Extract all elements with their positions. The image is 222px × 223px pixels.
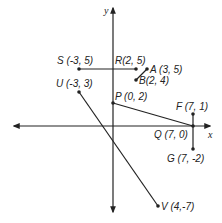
x-axis-label: x xyxy=(207,129,213,140)
point-B xyxy=(134,78,138,82)
label-F: F (7, 1) xyxy=(176,101,208,112)
label-Q: Q (7, 0) xyxy=(154,129,188,140)
point-F xyxy=(191,112,195,116)
y-axis-label: y xyxy=(103,5,109,16)
label-U: U (-3, 3) xyxy=(56,78,93,89)
label-G: G (7, -2) xyxy=(167,153,204,164)
point-U xyxy=(77,90,81,94)
point-Q xyxy=(191,124,195,128)
point-V xyxy=(156,204,160,208)
label-B: B(2, 4) xyxy=(139,75,169,86)
label-V: V (4,-7) xyxy=(161,201,194,212)
label-R: R(2, 5) xyxy=(115,55,146,66)
point-R xyxy=(134,67,138,71)
point-A xyxy=(145,67,149,71)
label-S: S (-3, 5) xyxy=(57,55,93,66)
segment-UV xyxy=(79,92,158,206)
point-S xyxy=(77,67,81,71)
point-G xyxy=(191,147,195,151)
coordinate-plane: x y S (-3, 5) R(2, 5) A (3, 5) B(2, 4) U… xyxy=(0,0,222,223)
label-P: P (0, 2) xyxy=(115,91,147,102)
label-A: A (3, 5) xyxy=(149,64,182,75)
